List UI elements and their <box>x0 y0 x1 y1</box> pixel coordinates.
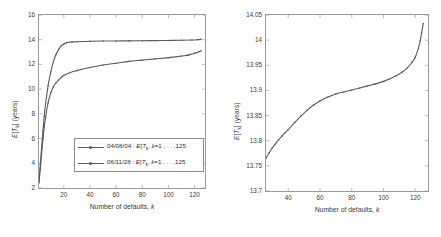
x-tick-label: 40 <box>276 194 300 201</box>
y-tick-label: 13.8 <box>231 137 262 144</box>
y-axis-label-left: E[Tk] (years) <box>11 100 20 138</box>
legend-line-sample <box>78 158 104 168</box>
y-tick-label: 12 <box>4 60 35 67</box>
x-axis-label-left: Number of defaults, k <box>38 203 206 210</box>
x-tick-label: 80 <box>130 191 154 198</box>
y-tick-label: 2 <box>4 184 35 191</box>
plot-curves-right <box>266 15 428 191</box>
y-tick-label: 8 <box>4 110 35 117</box>
x-tick-label: 120 <box>403 194 427 201</box>
legend-label: 04/08/04 : E[Tk, k=1 , . . ,125 <box>107 142 186 151</box>
x-tick-label: 60 <box>308 194 332 201</box>
y-tick-label: 13.75 <box>231 162 262 169</box>
figure-container: E[Tk] (years) Number of defaults, k 2468… <box>0 0 441 237</box>
x-tick-label: 120 <box>183 191 207 198</box>
plot-area-right <box>265 14 429 192</box>
y-tick-label: 13.85 <box>231 112 262 119</box>
y-axis-label-right: E[Tk] (years) <box>233 102 242 140</box>
y-tick-label: 10 <box>4 85 35 92</box>
x-tick-label: 20 <box>52 191 76 198</box>
y-tick-label: 14 <box>4 36 35 43</box>
legend-line-sample <box>78 142 104 152</box>
y-tick-label: 13.9 <box>231 86 262 93</box>
y-tick-label: 14.05 <box>231 11 262 18</box>
legend-entry[interactable]: 06/11/28 : E[Tk, k=1 , . . ,125 <box>75 155 203 171</box>
curve <box>266 24 423 159</box>
x-tick-label: 40 <box>78 191 102 198</box>
y-tick-label: 16 <box>4 11 35 18</box>
x-axis-label-right: Number of defaults, k <box>265 206 429 213</box>
legend-label: 06/11/28 : E[Tk, k=1 , . . ,125 <box>107 158 185 167</box>
x-tick-label: 100 <box>156 191 180 198</box>
x-tick-label: 100 <box>372 194 396 201</box>
y-tick-label: 13.7 <box>231 187 262 194</box>
y-tick-label: 13.95 <box>231 61 262 68</box>
y-tick-label: 4 <box>4 159 35 166</box>
legend-entry[interactable]: 04/08/04 : E[Tk, k=1 , . . ,125 <box>75 139 203 155</box>
y-tick-label: 6 <box>4 135 35 142</box>
x-tick-label: 60 <box>104 191 128 198</box>
legend-left[interactable]: 04/08/04 : E[Tk, k=1 , . . ,12506/11/28 … <box>74 138 204 172</box>
chart-panel-right: E[Tk] (years) Number of defaults, k 13.7… <box>221 0 441 237</box>
chart-panel-left: E[Tk] (years) Number of defaults, k 2468… <box>0 0 220 237</box>
x-tick-label: 80 <box>340 194 364 201</box>
y-tick-label: 14 <box>231 36 262 43</box>
